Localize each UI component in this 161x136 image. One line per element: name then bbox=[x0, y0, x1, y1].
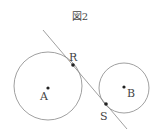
label-s: S bbox=[100, 110, 108, 123]
label-a: A bbox=[39, 90, 49, 103]
tangent-line bbox=[43, 30, 127, 129]
tangent-circles-diagram: 図2 A B R S bbox=[0, 0, 161, 136]
point-b bbox=[122, 85, 125, 88]
label-b: B bbox=[127, 87, 135, 100]
label-r: R bbox=[69, 51, 78, 64]
figure-title: 図2 bbox=[72, 11, 88, 22]
point-s bbox=[104, 102, 108, 106]
